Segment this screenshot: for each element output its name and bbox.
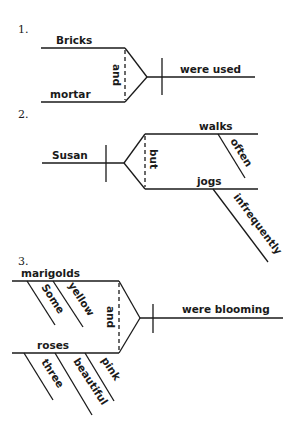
diagram-3: 3. marigolds Some yellow roses three bea… [12, 255, 283, 415]
diagram-2: 2. Susan but walks often jogs infrequent… [18, 108, 285, 262]
word-were-blooming: were blooming [182, 303, 270, 315]
word-yellow: yellow [66, 280, 97, 319]
fork-lower [125, 77, 147, 102]
word-were-used: were used [180, 63, 241, 75]
fork-lower [119, 318, 140, 353]
word-bricks: Bricks [56, 34, 92, 46]
word-and: and [111, 64, 123, 86]
word-and: and [105, 306, 117, 328]
diagram-1: 1. Bricks mortar and were used [18, 23, 255, 102]
fork-lower [124, 163, 145, 189]
word-mortar: mortar [50, 88, 91, 100]
fork-upper [124, 134, 145, 163]
fork-upper [119, 281, 140, 318]
diagram-number: 2. [18, 108, 29, 121]
word-some: Some [39, 282, 67, 316]
word-marigolds: marigolds [21, 267, 80, 279]
word-roses: roses [37, 339, 69, 351]
word-jogs: jogs [196, 175, 222, 187]
word-often: often [228, 136, 255, 169]
word-susan: Susan [52, 149, 88, 161]
sentence-diagrams: 1. Bricks mortar and were used 2. Susan … [0, 0, 299, 431]
diagram-number: 1. [18, 23, 29, 36]
word-walks: walks [199, 120, 233, 132]
fork-upper [125, 48, 147, 77]
word-but: but [148, 149, 160, 169]
word-pink: pink [99, 355, 124, 384]
